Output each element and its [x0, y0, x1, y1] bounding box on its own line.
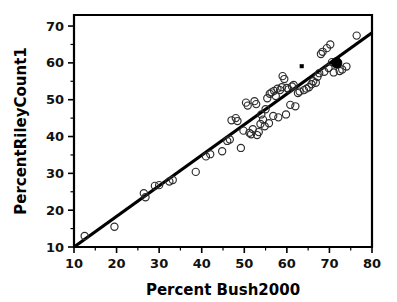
- x-tick-label: 10: [65, 256, 83, 271]
- x-tick-label: 50: [235, 256, 253, 271]
- data-point-highlighted: [331, 58, 341, 68]
- y-axis-title: PercentRileyCount1: [12, 47, 30, 215]
- x-tick-label: 40: [193, 256, 211, 271]
- y-tick-label: 20: [46, 203, 64, 218]
- x-axis-title: Percent Bush2000: [146, 281, 300, 299]
- data-point-highlighted-marker: [331, 58, 341, 68]
- x-tick-label: 20: [108, 256, 126, 271]
- y-tick-label: 70: [46, 19, 64, 34]
- y-tick-label: 40: [46, 129, 64, 144]
- x-tick-label: 60: [278, 256, 296, 271]
- scatter-plot-figure: 1020304050607080 10203040506070 Percent …: [0, 0, 397, 302]
- data-point-small-dot: [300, 64, 304, 68]
- x-tick-label: 30: [150, 256, 168, 271]
- data-point-small: [300, 64, 304, 68]
- y-tick-label: 10: [46, 240, 64, 255]
- x-tick-label: 70: [320, 256, 338, 271]
- y-tick-label: 50: [46, 92, 64, 107]
- y-tick-label: 60: [46, 55, 64, 70]
- x-tick-label: 80: [363, 256, 381, 271]
- y-tick-label: 30: [46, 166, 64, 181]
- plot-canvas: 1020304050607080 10203040506070 Percent …: [0, 0, 397, 302]
